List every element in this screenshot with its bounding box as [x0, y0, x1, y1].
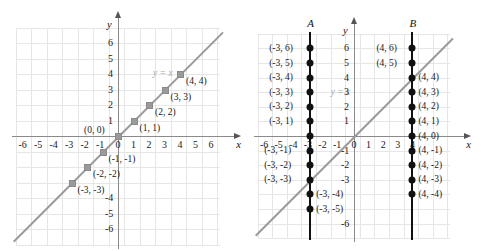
line-a-point-marker: [307, 162, 314, 169]
y-tick-label: -6: [341, 219, 349, 229]
line-a-point-marker: [307, 206, 314, 213]
line-a-point-label: (-3, 2): [269, 102, 293, 112]
data-point-marker: [100, 149, 107, 156]
y-tick-label: 1: [344, 116, 349, 126]
x-tick-label: -4: [50, 140, 58, 150]
line-b-point-marker: [409, 60, 416, 67]
line-b-point-marker: [409, 89, 416, 96]
line-a-point-label: (-3, 3): [269, 88, 293, 98]
y-tick-label: -4: [105, 193, 113, 203]
line-a-point-label: (-3, 6): [269, 44, 293, 54]
line-a-point-marker: [307, 45, 314, 52]
x-tick-label: 3: [162, 140, 167, 150]
line-b-point-label: (4, -3): [418, 175, 442, 185]
line-b-point-marker: [409, 147, 416, 154]
line-a-point-marker: [307, 133, 314, 140]
x-tick-label: 1: [366, 140, 371, 150]
x-tick-label: 2: [381, 140, 386, 150]
y-tick-label: 5: [344, 58, 349, 68]
line-a-point-marker: [307, 74, 314, 81]
x-tick-label: 3: [395, 140, 400, 150]
data-point-marker: [131, 118, 138, 125]
line-a-point-marker: [307, 176, 314, 183]
line-b-point-marker: [409, 133, 416, 140]
data-point-label: (-1, -1): [109, 155, 136, 165]
data-point-marker: [162, 87, 169, 94]
data-point-marker: [115, 133, 122, 140]
right-graph-panel: yxy = x-6-5-4-3-2-101234123456-1-2-3-6AB…: [242, 0, 484, 251]
y-tick-label: 6: [344, 43, 349, 53]
line-a-point-label: (-3, 5): [269, 59, 293, 69]
x-axis-name: x: [236, 140, 241, 151]
x-tick-label: 1: [131, 140, 136, 150]
line-a-point-marker: [307, 60, 314, 67]
y-tick-label: 4: [344, 73, 349, 83]
y-axis-name: y: [343, 26, 348, 37]
line-b-point-label: (4, 6): [376, 44, 397, 54]
line-b-point-label: (4, 0): [418, 132, 439, 142]
data-point-marker: [84, 164, 91, 171]
line-a-point-marker: [307, 147, 314, 154]
line-a-point-label: (-3, -3): [264, 175, 291, 185]
line-b-point-label: (4, -2): [418, 161, 442, 171]
y-tick-label: 2: [344, 102, 349, 112]
line-b-point-marker: [409, 103, 416, 110]
y-tick-label: -6: [105, 224, 113, 234]
line-b-point-label: (4, -1): [418, 146, 442, 156]
x-tick-label: 6: [209, 140, 214, 150]
x-tick-label: 4: [178, 140, 183, 150]
line-b-point-marker: [409, 162, 416, 169]
y-tick-label: -2: [341, 160, 349, 170]
y-tick-label: 2: [108, 100, 113, 110]
line-b-point-marker: [409, 45, 416, 52]
y-tick-label: -1: [341, 146, 349, 156]
line-a-point-label: (-3, -5): [316, 205, 343, 215]
line-b-point-marker: [409, 118, 416, 125]
line-a-point-label: (-3, -4): [316, 190, 343, 200]
x-tick-label: -6: [19, 140, 27, 150]
line-a-point-label: (-3, 1): [269, 117, 293, 127]
line-b-point-label: (4, -4): [418, 190, 442, 200]
x-tick-label: 2: [147, 140, 152, 150]
x-tick-label: -2: [81, 140, 89, 150]
data-point-marker: [146, 102, 153, 109]
y-tick-label: 1: [108, 116, 113, 126]
data-point-label: (0, 0): [84, 126, 105, 136]
line-b-point-label: (4, 5): [376, 59, 397, 69]
y-axis: [354, 24, 355, 242]
y-axis-name: y: [107, 20, 112, 31]
line-b-point-marker: [409, 74, 416, 81]
y-tick-label: 3: [344, 87, 349, 97]
y-tick-label: 3: [108, 85, 113, 95]
left-graph-panel: yxy = x-6-5-4-3-2-10123456123456-4-5-6(-…: [0, 0, 242, 251]
line-a-point-marker: [307, 191, 314, 198]
data-point-label: (3, 3): [171, 93, 192, 103]
line-b-point-marker: [409, 191, 416, 198]
y-tick-label: 6: [108, 38, 113, 48]
data-point-label: (-3, -3): [78, 186, 105, 196]
data-point-label: (1, 1): [140, 124, 161, 134]
data-point-marker: [177, 71, 184, 78]
line-a-name: A: [307, 18, 314, 29]
line-a-point-marker: [307, 118, 314, 125]
data-point-label: (4, 4): [186, 77, 207, 87]
line-b-point-label: (4, 2): [418, 102, 439, 112]
line-b-point-label: (4, 1): [418, 117, 439, 127]
x-tick-label: 0: [116, 140, 121, 150]
x-axis: [12, 136, 235, 137]
x-tick-label: -1: [333, 140, 341, 150]
data-point-marker: [69, 180, 76, 187]
x-tick-label: -5: [34, 140, 42, 150]
x-axis-name: x: [466, 140, 471, 151]
x-tick-label: 5: [193, 140, 198, 150]
y-tick-label: -5: [105, 209, 113, 219]
x-tick-label: -3: [65, 140, 73, 150]
line-b-point-label: (4, 4): [418, 73, 439, 83]
x-tick-label: -2: [318, 140, 326, 150]
y-tick-label: 5: [108, 54, 113, 64]
line-a-point-label: (-3, -2): [264, 161, 291, 171]
line-a-point-label: (-3, 4): [269, 73, 293, 83]
line-a-point-marker: [307, 103, 314, 110]
y-tick-label: 4: [108, 69, 113, 79]
y-tick-label: -3: [341, 175, 349, 185]
